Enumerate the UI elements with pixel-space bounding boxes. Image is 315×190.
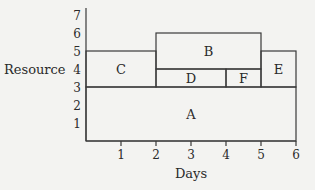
block-label-f: F: [239, 71, 248, 86]
y-tick-label: 6: [73, 27, 81, 41]
block-label-c: C: [116, 62, 126, 77]
x-tick-label: 2: [152, 148, 160, 162]
y-tick-label: 5: [73, 45, 81, 59]
y-tick-label: 1: [73, 117, 81, 131]
blocks-layer: ABCDEF: [86, 33, 296, 141]
y-tick-label: 7: [73, 9, 81, 23]
y-ticks: 1234567: [73, 9, 81, 131]
y-tick-label: 3: [73, 81, 81, 95]
block-label-e: E: [274, 62, 284, 77]
x-tick-label: 5: [257, 148, 265, 162]
block-label-d: D: [186, 71, 196, 86]
y-axis-label: Resource: [4, 62, 66, 77]
x-axis-label: Days: [175, 166, 207, 181]
x-ticks: 123456: [117, 141, 300, 162]
x-tick-label: 3: [187, 148, 195, 162]
x-tick-label: 4: [222, 148, 230, 162]
x-tick-label: 6: [292, 148, 300, 162]
block-label-a: A: [185, 107, 196, 122]
resource-schedule-diagram: ABCDEF 123456 1234567 Resource Days: [0, 0, 315, 190]
y-tick-label: 2: [73, 99, 81, 113]
x-tick-label: 1: [117, 148, 125, 162]
y-tick-label: 4: [73, 63, 81, 77]
block-label-b: B: [204, 44, 214, 59]
